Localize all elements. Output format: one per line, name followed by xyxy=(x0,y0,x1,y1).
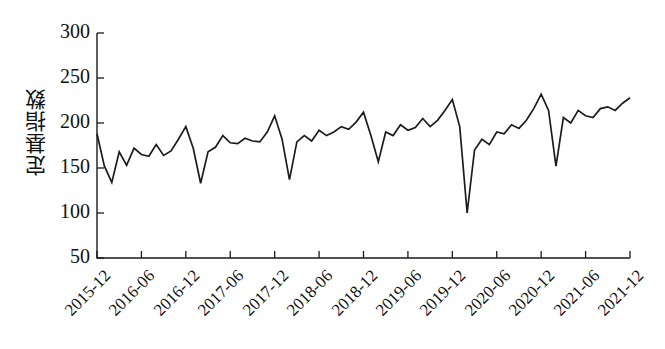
plot-area xyxy=(0,0,665,349)
data-series-line xyxy=(97,94,630,213)
x-axis-ticks xyxy=(97,251,630,258)
axis-lines xyxy=(97,33,630,258)
line-chart: 定基指数 50100150200250300 2015-122016-06201… xyxy=(0,0,665,349)
